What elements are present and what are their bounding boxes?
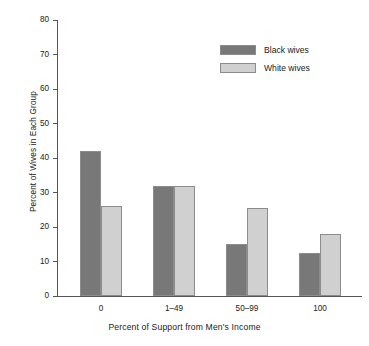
y-axis-tick-label: 30 xyxy=(40,188,49,198)
x-axis-tick-label: 1–49 xyxy=(134,304,214,313)
y-axis-tick: 0 xyxy=(27,291,57,301)
y-axis-tick-label: 80 xyxy=(40,15,49,25)
y-axis-tick-label: 10 xyxy=(40,257,49,267)
bar-group xyxy=(80,20,122,296)
bar xyxy=(80,151,101,296)
y-axis-tick-label: 40 xyxy=(40,153,49,163)
legend-label: Black wives xyxy=(264,43,309,57)
y-axis-tick: 80 xyxy=(27,15,57,25)
bar xyxy=(247,208,268,296)
legend-swatch xyxy=(220,45,256,55)
bar xyxy=(226,244,247,296)
bar-group xyxy=(226,20,268,296)
bar xyxy=(320,234,341,296)
bar xyxy=(174,186,195,296)
y-axis-tick: 30 xyxy=(27,188,57,198)
y-axis-tick: 60 xyxy=(27,84,57,94)
y-axis-tick-label: 70 xyxy=(40,50,49,60)
y-axis-tick: 50 xyxy=(27,119,57,129)
y-axis-tick-label: 0 xyxy=(44,291,49,301)
bar xyxy=(153,186,174,296)
bar xyxy=(101,206,122,296)
y-axis-tick: 40 xyxy=(27,153,57,163)
x-axis-title: Percent of Support from Men's Income xyxy=(0,322,369,332)
y-axis-tick: 70 xyxy=(27,50,57,60)
y-axis-tick-label: 60 xyxy=(40,84,49,94)
x-axis-tick-label: 50–99 xyxy=(207,304,287,313)
bar-group xyxy=(153,20,195,296)
bar-series-container xyxy=(57,20,362,297)
bar-chart-figure: Percent of Wives in Each Group 010203040… xyxy=(0,0,369,346)
x-axis-tick-label: 0 xyxy=(61,304,141,313)
legend-label: White wives xyxy=(264,61,310,75)
x-axis-tick-label: 100 xyxy=(280,304,360,313)
plot-area: 01020304050607080 01–4950–99100 xyxy=(57,20,362,297)
y-axis-tick: 10 xyxy=(27,257,57,267)
y-axis-tick: 20 xyxy=(27,222,57,232)
y-axis-tick-label: 50 xyxy=(40,119,49,129)
legend-swatch xyxy=(220,63,256,73)
y-axis-tick-label: 20 xyxy=(40,222,49,232)
bar xyxy=(299,253,320,296)
